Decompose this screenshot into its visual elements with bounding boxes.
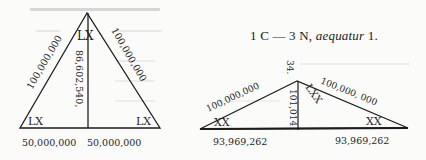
right-base-right-angle-label: XX xyxy=(366,115,382,128)
altitude-length-label: 86,602,540, xyxy=(74,50,85,107)
apex-top-label: 34. xyxy=(285,60,295,74)
base-right-length-label: 50,000,000 xyxy=(87,137,141,148)
diagram-canvas: LX LX LX 100,000,000 100,000,000 86,602,… xyxy=(0,0,426,160)
book-page: 1 C — 3 N, aequatur 1. LX LX LX 100,000,… xyxy=(0,0,426,160)
right-triangle-base xyxy=(200,128,408,129)
left-triangle-diagram: LX LX LX 100,000,000 100,000,000 86,602,… xyxy=(20,13,160,148)
left-apex-angle-label: LX xyxy=(77,29,94,43)
right-altitude-label: 101,014 xyxy=(288,89,298,126)
right-base-left-angle-label: XX xyxy=(214,116,230,129)
left-base-right-angle-label: LX xyxy=(136,115,151,128)
left-base-left-angle-label: LX xyxy=(28,115,43,128)
right-side-length-label: 100,000,000 xyxy=(109,26,149,84)
right-left-side-label: 100,000,000 xyxy=(205,80,261,113)
right-base-right-length-label: 93,969,262 xyxy=(335,135,389,146)
right-base-left-length-label: 93,969,262 xyxy=(213,136,267,147)
right-triangle-diagram: 34. LXX XX XX 100,000,000 100,000, 000 1… xyxy=(200,60,408,147)
base-left-length-label: 50,000,000 xyxy=(22,137,76,148)
